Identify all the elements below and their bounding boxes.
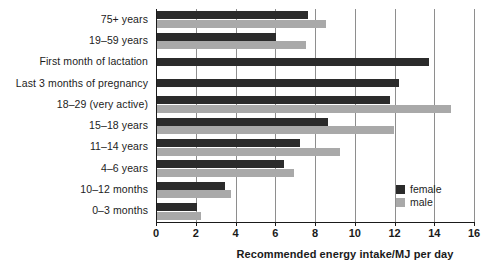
x-tick-label-6: 6 xyxy=(263,227,287,239)
bar-female-2 xyxy=(157,58,429,66)
x-tick-label-8: 8 xyxy=(303,227,327,239)
legend-swatch-female-icon xyxy=(396,185,405,194)
bar-male-7 xyxy=(157,169,294,177)
category-label-8: 10–12 months xyxy=(0,184,148,195)
x-tick-label-2: 2 xyxy=(184,227,208,239)
category-label-5: 15–18 years xyxy=(0,120,148,131)
category-label-6: 11–14 years xyxy=(0,141,148,152)
x-tick-label-16: 16 xyxy=(462,227,486,239)
bar-female-8 xyxy=(157,182,225,190)
legend-label-male: male xyxy=(410,196,433,208)
x-tick-label-14: 14 xyxy=(422,227,446,239)
chart-legend: femalemale xyxy=(396,183,466,209)
legend-label-female: female xyxy=(410,183,442,195)
x-tick-0 xyxy=(156,222,157,226)
x-tick-14 xyxy=(434,222,435,226)
bar-female-5 xyxy=(157,118,328,126)
x-tick-label-0: 0 xyxy=(144,227,168,239)
x-tick-10 xyxy=(355,222,356,226)
bar-female-9 xyxy=(157,203,197,211)
category-label-2: First month of lactation xyxy=(0,56,148,67)
bar-female-3 xyxy=(157,79,399,87)
x-tick-16 xyxy=(474,222,475,226)
bar-male-5 xyxy=(157,126,394,134)
category-label-1: 19–59 years xyxy=(0,35,148,46)
x-axis-title: Recommended energy intake/MJ per day xyxy=(200,248,490,260)
bar-female-0 xyxy=(157,11,308,19)
category-label-0: 75+ years xyxy=(0,14,148,25)
x-tick-label-4: 4 xyxy=(224,227,248,239)
x-tick-4 xyxy=(236,222,237,226)
legend-item-female: female xyxy=(396,183,466,195)
horizontal-bar-chart: 75+ years19–59 yearsFirst month of lacta… xyxy=(0,0,499,277)
bar-male-0 xyxy=(157,20,326,28)
x-tick-8 xyxy=(315,222,316,226)
category-axis-labels: 75+ years19–59 yearsFirst month of lacta… xyxy=(0,9,152,222)
x-tick-label-12: 12 xyxy=(383,227,407,239)
x-tick-12 xyxy=(395,222,396,226)
bar-female-6 xyxy=(157,139,300,147)
x-tick-2 xyxy=(196,222,197,226)
x-tick-6 xyxy=(275,222,276,226)
bar-female-1 xyxy=(157,33,276,41)
bar-female-4 xyxy=(157,96,390,104)
bar-male-4 xyxy=(157,105,451,113)
category-label-4: 18–29 (very active) xyxy=(0,99,148,110)
bar-male-1 xyxy=(157,41,306,49)
legend-item-male: male xyxy=(396,196,466,208)
x-tick-label-10: 10 xyxy=(343,227,367,239)
bar-male-6 xyxy=(157,148,340,156)
category-label-9: 0–3 months xyxy=(0,205,148,216)
bar-male-8 xyxy=(157,190,231,198)
bar-male-9 xyxy=(157,212,201,220)
category-label-3: Last 3 months of pregnancy xyxy=(0,78,148,89)
gridline-x-8 xyxy=(315,9,316,222)
gridline-x-10 xyxy=(355,9,356,222)
category-label-7: 4–6 years xyxy=(0,163,148,174)
legend-swatch-male-icon xyxy=(396,198,405,207)
gridline-x-16 xyxy=(474,9,475,222)
bar-female-7 xyxy=(157,160,284,168)
